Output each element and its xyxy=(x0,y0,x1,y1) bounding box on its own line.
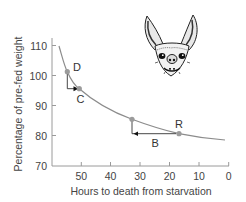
x-tick-label: 40 xyxy=(105,170,117,182)
bat-head-illustration xyxy=(145,15,197,76)
y-tick-label: 90 xyxy=(35,100,47,112)
y-tick-label: 110 xyxy=(30,40,47,52)
x-axis-title: Hours to death from starvation xyxy=(70,185,211,197)
y-tick-label: 80 xyxy=(35,130,47,142)
point-c xyxy=(77,86,82,91)
x-tick-label: 0 xyxy=(226,170,232,182)
x-tick-label: 20 xyxy=(164,170,176,182)
x-tick-label: 30 xyxy=(134,170,146,182)
point-upper-b xyxy=(129,117,134,122)
point-d xyxy=(65,69,70,74)
x-ticks: 50 40 30 20 10 0 xyxy=(75,162,231,182)
point-r xyxy=(176,131,181,136)
label-d: D xyxy=(73,61,81,73)
label-r: R xyxy=(175,118,183,130)
chart: 110 100 90 80 70 50 40 30 20 10 0 Hours … xyxy=(0,0,246,202)
y-tick-label: 70 xyxy=(35,160,47,172)
label-b: B xyxy=(152,137,159,149)
y-axis-title: Percentage of pre-fed weight xyxy=(12,37,24,172)
x-tick-label: 50 xyxy=(75,170,87,182)
y-tick-label: 100 xyxy=(29,70,47,82)
label-c: C xyxy=(77,93,85,105)
x-tick-label: 10 xyxy=(193,170,205,182)
